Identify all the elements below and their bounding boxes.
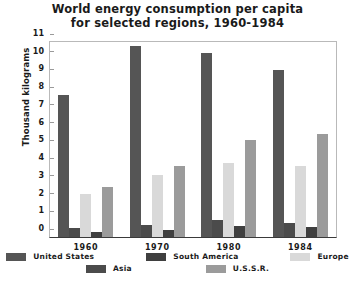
y-tick-7: 7	[38, 101, 50, 109]
y-tick-11: 11	[33, 30, 50, 38]
bar-1984-south-america	[306, 227, 317, 237]
bar-group-1980: 1980	[193, 42, 265, 237]
bar-1960-europe	[80, 194, 91, 237]
y-tick-1: 1	[38, 207, 50, 215]
legend-swatch-asia	[86, 265, 106, 273]
bar-1960-u-s-s-r	[102, 187, 113, 237]
bar-group-1970: 1970	[122, 42, 194, 237]
legend-item-united-states[interactable]: United States	[6, 252, 94, 261]
chart-title-line-1: World energy consumption per capita	[52, 2, 304, 16]
bar-group-1984: 1984	[265, 42, 337, 237]
y-tick-5: 5	[38, 136, 50, 144]
bar-1980-south-america	[234, 226, 245, 237]
bar-1980-europe	[223, 163, 234, 237]
legend-row-secondary: AsiaU.S.S.R.	[0, 264, 355, 273]
bar-1970-u-s-s-r	[174, 166, 185, 237]
y-tick-9: 9	[38, 65, 50, 73]
legend-label-asia: Asia	[113, 264, 132, 273]
y-tick-10: 10	[33, 48, 50, 56]
y-tick-mark	[50, 34, 54, 35]
energy-consumption-bar-chart: World energy consumption per capita for …	[0, 0, 355, 283]
bar-1960-united-states	[58, 95, 69, 237]
bar-1980-u-s-s-r	[245, 140, 256, 238]
bar-1960-south-america	[91, 232, 102, 237]
legend-label-europe: Europe	[317, 252, 348, 261]
bar-groups: 1960197019801984	[50, 42, 336, 237]
legend-item-u-s-s-r[interactable]: U.S.S.R.	[206, 264, 269, 273]
legend-row-primary: United StatesSouth AmericaEurope	[0, 252, 355, 261]
y-tick-8: 8	[38, 83, 50, 91]
x-tick-1984: 1984	[288, 243, 313, 252]
legend-swatch-u-s-s-r	[206, 265, 226, 273]
legend-swatch-south-america	[146, 253, 166, 261]
legend-label-united-states: United States	[33, 252, 94, 261]
chart-title: World energy consumption per capita for …	[0, 2, 355, 30]
bar-1970-asia	[141, 225, 152, 237]
chart-title-line-2: for selected regions, 1960-1984	[0, 16, 355, 30]
bar-1970-europe	[152, 175, 163, 237]
y-axis-title: Thousand kilograms	[21, 27, 31, 167]
legend-label-u-s-s-r: U.S.S.R.	[233, 264, 269, 273]
legend-label-south-america: South America	[173, 252, 238, 261]
legend-item-south-america[interactable]: South America	[146, 252, 238, 261]
y-tick-6: 6	[38, 119, 50, 127]
bar-1960-asia	[69, 228, 80, 237]
legend-swatch-europe	[290, 253, 310, 261]
x-tick-1960: 1960	[73, 243, 98, 252]
x-tick-1980: 1980	[216, 243, 241, 252]
y-tick-2: 2	[38, 190, 50, 198]
chart-legend: United StatesSouth AmericaEurope AsiaU.S…	[0, 252, 355, 276]
plot-area: 01234567891011 1960197019801984	[49, 41, 337, 238]
bar-group-1960: 1960	[50, 42, 122, 237]
bar-1984-u-s-s-r	[317, 134, 328, 237]
bar-1984-europe	[295, 166, 306, 237]
x-tick-1970: 1970	[145, 243, 170, 252]
y-tick-0: 0	[38, 225, 50, 233]
bar-1984-asia	[284, 223, 295, 237]
bar-1980-asia	[212, 220, 223, 237]
bar-1970-united-states	[130, 46, 141, 237]
legend-item-asia[interactable]: Asia	[86, 264, 132, 273]
bar-1984-united-states	[273, 70, 284, 237]
bar-1980-united-states	[201, 53, 212, 237]
legend-item-europe[interactable]: Europe	[290, 252, 348, 261]
legend-swatch-united-states	[6, 253, 26, 261]
bar-1970-south-america	[163, 230, 174, 237]
y-tick-4: 4	[38, 154, 50, 162]
y-tick-3: 3	[38, 172, 50, 180]
